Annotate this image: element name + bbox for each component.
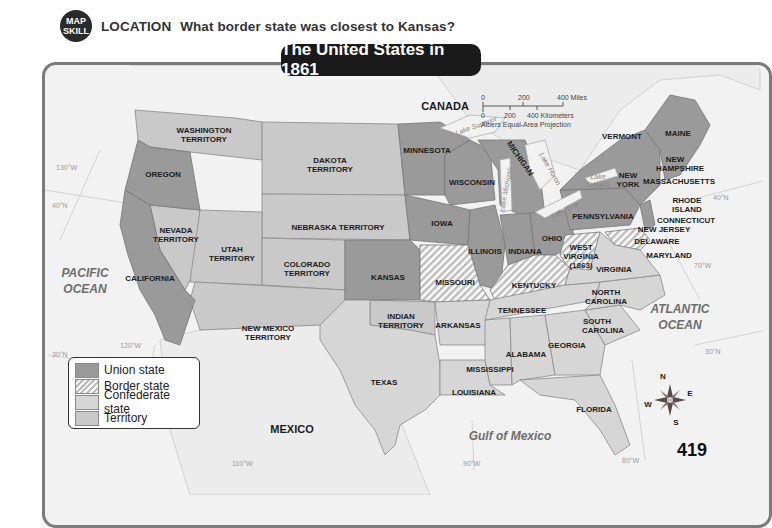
label-south-carolina: SOUTH [583, 317, 611, 326]
label-pacific-1: PACIFIC [61, 266, 108, 280]
compass-rose-icon [654, 384, 686, 416]
label-west-virginia-3: (1863) [569, 261, 592, 270]
label-kentucky: KENTUCKY [512, 281, 557, 290]
label-vermont: VERMONT [602, 132, 642, 141]
label-colorado: COLORADO [284, 260, 331, 269]
label-dakota-2: TERRITORY [307, 165, 353, 174]
compass-w: W [644, 400, 652, 409]
label-lake-ontario-1: Lake [590, 173, 605, 180]
region-kansas [345, 240, 420, 300]
label-canada: CANADA [421, 100, 469, 112]
scale-km-200: 200 [504, 112, 516, 119]
label-south-carolina-2: CAROLINA [582, 326, 624, 335]
label-new-york-2: YORK [616, 180, 639, 189]
confederate-swatch [75, 395, 99, 410]
legend-item-confederate: Confederate state [75, 394, 199, 410]
label-nevada: NEVADA [159, 226, 192, 235]
label-lake-ontario-2: Ontario [587, 181, 610, 188]
label-new-mexico-2: TERRITORY [245, 333, 291, 342]
compass-n: N [660, 372, 666, 381]
label-minnesota: MINNESOTA [403, 146, 451, 155]
label-delaware: DELAWARE [634, 237, 680, 246]
label-utah: UTAH [221, 245, 243, 254]
label-indian-territory-2: TERRITORY [378, 321, 424, 330]
label-new-jersey: NEW JERSEY [638, 225, 691, 234]
label-pacific-2: OCEAN [63, 282, 107, 296]
label-atlantic-1: ATLANTIC [649, 302, 709, 316]
label-indiana: INDIANA [508, 247, 542, 256]
lat-30n-west: 30°N [52, 351, 68, 358]
lat-40n-east: 40°N [713, 194, 729, 201]
label-west-virginia-2: VIRGINIA [563, 252, 599, 261]
territory-swatch [75, 411, 99, 426]
lon-90w: 90°W [463, 460, 481, 467]
label-atlantic-2: OCEAN [658, 318, 702, 332]
label-washington: WASHINGTON [177, 126, 232, 135]
region-florida [520, 375, 630, 455]
label-maine: MAINE [665, 129, 691, 138]
lon-110w: 110°W [232, 460, 253, 467]
legend-label-territory: Territory [104, 411, 147, 425]
label-nebraska: NEBRASKA TERRITORY [291, 223, 385, 232]
compass-s: S [673, 418, 679, 427]
page-number: 419 [677, 440, 707, 461]
label-maryland: MARYLAND [646, 251, 692, 260]
lon-130w: 130°W [56, 164, 77, 171]
label-missouri: MISSOURI [435, 278, 475, 287]
label-utah-2: TERRITORY [209, 254, 255, 263]
border-swatch [75, 379, 99, 394]
compass-e: E [687, 389, 693, 398]
label-wisconsin: WISCONSIN [449, 178, 495, 187]
label-mexico: MEXICO [270, 423, 314, 435]
label-texas: TEXAS [371, 378, 398, 387]
label-gulf-of-mexico: Gulf of Mexico [469, 429, 552, 443]
label-rhode-island-2: ISLAND [672, 205, 702, 214]
scale-km-400: 400 Kilometers [527, 112, 574, 119]
map-legend: Union state Border state Confederate sta… [68, 357, 200, 429]
scale-miles-0: 0 [481, 94, 485, 101]
scale-miles-400: 400 Miles [557, 94, 587, 101]
label-oregon: OREGON [145, 170, 181, 179]
label-north-carolina: NORTH [592, 288, 621, 297]
label-new-hampshire: NEW [666, 155, 685, 164]
label-california: CALIFORNIA [125, 274, 175, 283]
legend-item-union: Union state [75, 362, 199, 378]
label-nevada-2: TERRITORY [153, 235, 199, 244]
legend-label-union: Union state [104, 363, 165, 377]
label-new-mexico: NEW MEXICO [242, 324, 294, 333]
label-ohio: OHIO [542, 234, 562, 243]
lon-120w: 120°W [120, 342, 141, 349]
label-dakota: DAKOTA [313, 156, 347, 165]
label-mississippi: MISSISSIPPI [466, 365, 514, 374]
union-swatch [75, 363, 99, 378]
label-tennessee: TENNESSEE [498, 306, 547, 315]
label-north-carolina-2: CAROLINA [585, 297, 627, 306]
scale-miles-200: 200 [518, 94, 530, 101]
label-pennsylvania: PENNSYLVANIA [572, 212, 634, 221]
lat-40n-west: 40°N [52, 202, 68, 209]
label-west-virginia: WEST [569, 243, 592, 252]
label-massachusetts: MASSACHUSETTS [643, 177, 716, 186]
label-alabama: ALABAMA [506, 350, 547, 359]
label-rhode-island: RHODE [673, 196, 703, 205]
label-indian-territory: INDIAN [387, 312, 415, 321]
label-kansas: KANSAS [371, 273, 405, 282]
lon-70w: 70°W [694, 262, 712, 269]
label-louisiana: LOUISIANA [452, 388, 496, 397]
lon-80w: 80°W [622, 457, 640, 464]
label-new-hampshire-2: HAMPSHIRE [656, 164, 705, 173]
label-illinois: ILLINOIS [468, 247, 502, 256]
region-nebraska-territory [262, 194, 410, 240]
label-arkansas: ARKANSAS [435, 321, 481, 330]
label-new-york: NEW [619, 171, 638, 180]
scale-km-0: 0 [481, 112, 485, 119]
label-washington-2: TERRITORY [181, 135, 227, 144]
map-title: The United States in 1861 [281, 44, 481, 76]
lat-30n-east: 30°N [705, 348, 721, 355]
label-florida: FLORIDA [576, 405, 612, 414]
label-colorado-2: TERRITORY [284, 269, 330, 278]
label-connecticut: CONNECTICUT [657, 216, 715, 225]
scale-projection: Albers Equal-Area Projection [481, 121, 571, 129]
label-georgia: GEORGIA [548, 341, 586, 350]
label-virginia: VIRGINIA [596, 265, 632, 274]
